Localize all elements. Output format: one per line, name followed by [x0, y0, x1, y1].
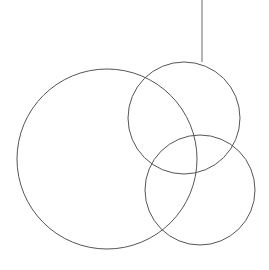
circles-figure-svg — [0, 0, 269, 270]
canvas-background — [0, 0, 269, 270]
figure-canvas — [0, 0, 269, 270]
